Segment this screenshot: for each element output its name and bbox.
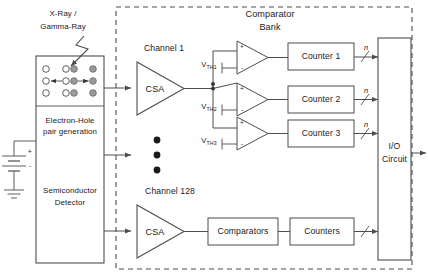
- electron-hole-label-line1: Electron-Hole: [45, 117, 94, 126]
- fanout-branch-mid: [213, 83, 237, 89]
- threshold-voltage-2-label: VTH2: [201, 103, 216, 113]
- radiation-source-label-line2: Gamma-Ray: [40, 23, 86, 32]
- comparator-3-plus-sign: +: [240, 119, 244, 126]
- vth1-subscript: TH1: [207, 64, 217, 70]
- vth2-subscript: TH2: [207, 106, 217, 112]
- channel-128-label: Channel 128: [145, 187, 195, 197]
- io-circuit-label-line1: I/O: [389, 142, 401, 152]
- ellipsis-dot: [154, 167, 161, 174]
- detector-name-line2: Detector: [55, 199, 86, 208]
- comparator-1-plus-sign: +: [240, 43, 244, 50]
- channel-ellipsis-dots: [154, 137, 161, 174]
- comparator-bank-title-line1: Comparator: [245, 9, 294, 19]
- detector-name-line1: Semiconductor: [43, 187, 97, 196]
- threshold-voltage-1-label: VTH1: [201, 61, 216, 71]
- comparator-1-minus-sign: -: [241, 64, 243, 71]
- bias-plus-sign: +: [28, 148, 32, 155]
- threshold-voltage-3-label: VTH3: [201, 137, 216, 147]
- counter-2-label: Counter 2: [302, 95, 341, 105]
- channel-1-label: Channel 1: [144, 44, 184, 54]
- comparators-block-label: Comparators: [218, 227, 269, 237]
- csa-channel1-label: CSA: [146, 84, 165, 94]
- counter-3-label: Counter 3: [302, 129, 341, 139]
- comparator-2-minus-sign: -: [241, 106, 243, 113]
- bias-supply-wire: [14, 141, 36, 156]
- csa-channel128-label: CSA: [146, 227, 165, 237]
- counters-block-label: Counters: [304, 227, 340, 237]
- comparator-bank-title-line2: Bank: [259, 22, 280, 32]
- counter-1-label: Counter 1: [302, 52, 341, 62]
- comparator-3-minus-sign: -: [241, 140, 243, 147]
- counter-1-bus-width-label: n: [364, 44, 368, 52]
- radiation-source-label-line1: X-Ray /: [49, 10, 76, 19]
- semiconductor-detector-body: [36, 56, 104, 263]
- ellipsis-dot: [154, 152, 161, 159]
- electron-hole-label-line2: pair generation: [43, 128, 97, 137]
- photon-zigzag-arrow: [71, 36, 88, 66]
- comparator-2-plus-sign: +: [240, 85, 244, 92]
- fanout-junction-node-2: [211, 82, 215, 86]
- block-diagram-figure: X-Ray / Gamma-Ray Electron-Hole pair gen…: [0, 0, 428, 274]
- bias-minus-sign: -: [29, 162, 31, 169]
- fanout-junction-node: [211, 87, 215, 91]
- ellipsis-dot: [154, 137, 161, 144]
- counter-3-bus-width-label: n: [364, 121, 368, 129]
- counter-2-bus-width-label: n: [364, 87, 368, 95]
- vth3-subscript: TH3: [207, 140, 217, 146]
- io-circuit-label-line2: Circuit: [382, 155, 407, 165]
